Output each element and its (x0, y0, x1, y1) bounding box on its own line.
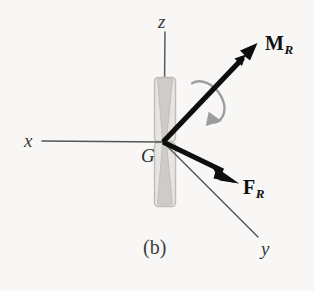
x-axis-label: x (24, 131, 32, 150)
center-of-mass-label: G (141, 146, 155, 165)
resultant-moment-subscript: R (284, 42, 293, 57)
figure-panel-b: x z y G MR FR (b) (0, 0, 314, 291)
resultant-moment-label: MR (265, 33, 293, 56)
z-axis-label: z (158, 12, 165, 31)
resultant-moment-vector (163, 43, 258, 142)
resultant-force-subscript: R (256, 186, 265, 201)
resultant-moment-symbol: M (265, 32, 284, 54)
resultant-force-label: FR (243, 177, 264, 200)
figure-caption: (b) (143, 237, 166, 257)
spin-arrow-icon (180, 74, 234, 131)
resultant-force-symbol: F (243, 176, 255, 198)
y-axis-label: y (261, 239, 269, 258)
x-axis-line (42, 141, 163, 142)
spin-arrowhead (200, 109, 222, 131)
